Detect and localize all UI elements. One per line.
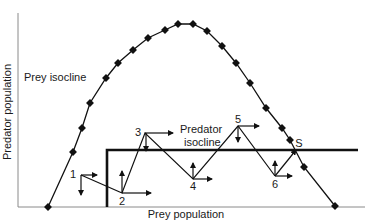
prey-isocline-label: Prey isocline [24, 71, 86, 83]
predator-isocline-line [107, 150, 358, 207]
predator-isocline [107, 150, 358, 207]
point-2-label: 2 [119, 195, 125, 207]
predator-isocline-label-line1: Predator [180, 123, 223, 135]
population-trajectory [81, 126, 275, 193]
point-3-label: 3 [135, 126, 141, 138]
x-axis-label: Prey population [148, 208, 224, 220]
point-5-label: 5 [235, 113, 241, 125]
predator-isocline-label-line2: isocline [184, 136, 221, 148]
point-6-label: 6 [272, 178, 278, 190]
equilibrium-label: S [295, 137, 302, 149]
trajectory-to-equilibrium [275, 150, 296, 176]
y-axis-label: Predator population [1, 64, 13, 160]
point-1-label: 1 [70, 168, 76, 180]
predator-prey-isocline-diagram: Predator population Prey population [0, 0, 370, 221]
point-4-label: 4 [190, 180, 196, 192]
